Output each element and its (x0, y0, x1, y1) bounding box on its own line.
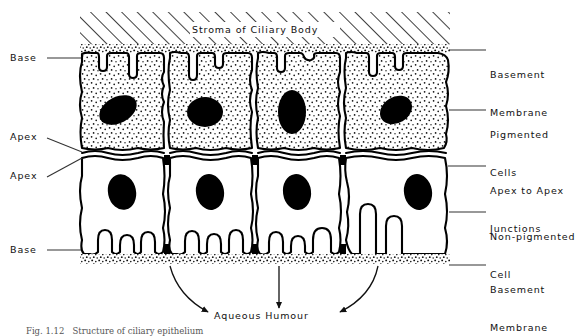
pigmented-cell-layer (80, 52, 449, 150)
label-line-2: Membrane (490, 322, 548, 335)
label-apex-upper: Apex (10, 131, 37, 144)
aqueous-flow-arrows (170, 266, 378, 312)
label-line-1: Pigmented (490, 129, 549, 142)
label-aqueous-humour: Aqueous Humour (214, 310, 309, 323)
flow-arrow-left (170, 266, 208, 312)
label-line-1: Basement (490, 284, 548, 297)
label-line-1: Basement (490, 69, 548, 82)
leader-lines-left (47, 58, 82, 250)
label-basement-membrane-bottom: Basement Membrane (490, 259, 548, 336)
stroma-title: Stroma of Ciliary Body (192, 24, 318, 37)
label-line-1: Non-pigmented (490, 231, 576, 244)
basal-infolding (360, 204, 376, 254)
non-pigmented-cell-layer (80, 156, 447, 255)
basal-infolding (386, 216, 402, 254)
label-line-1: Apex to Apex (490, 185, 564, 198)
label-base-top: Base (10, 52, 37, 65)
leader-apex-lower (47, 158, 82, 177)
label-base-bottom: Base (10, 244, 37, 257)
pigmented-cell-nucleus (187, 97, 223, 127)
figure-caption: Fig. 1.12 Structure of ciliary epitheliu… (26, 326, 203, 336)
basement-membrane-bottom (80, 254, 450, 264)
leader-apex-upper (47, 138, 82, 152)
label-apex-lower: Apex (10, 170, 37, 183)
flow-arrow-right (340, 266, 378, 312)
apex-to-apex-junction (82, 151, 446, 155)
pigmented-cell-nucleus (278, 90, 306, 134)
leader-lines-right (448, 50, 486, 265)
